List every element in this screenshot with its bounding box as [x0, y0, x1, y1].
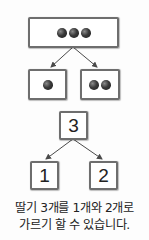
part-number-left: 1	[32, 163, 57, 188]
strawberry-icon	[89, 80, 99, 90]
caption-line-2: 가르기 할 수 있습니다.	[0, 217, 149, 233]
part-one-strawberry-box	[28, 69, 67, 100]
strawberry-icon	[57, 28, 67, 38]
whole-number-box: 3	[59, 111, 88, 140]
strawberry-icon	[101, 80, 111, 90]
strawberry-icon	[69, 28, 79, 38]
part-number-box-right: 2	[89, 161, 118, 190]
bottom-split-arrows	[46, 139, 102, 159]
strawberry-icon	[43, 80, 53, 90]
part-number-box-left: 1	[30, 161, 59, 190]
whole-number: 3	[61, 113, 86, 138]
part-two-strawberries-box	[80, 69, 120, 100]
part-number-right: 2	[91, 163, 116, 188]
top-split-arrows	[51, 47, 97, 67]
caption-line-1: 딸기 3개를 1개와 2개로	[0, 200, 149, 216]
strawberry-icon	[81, 28, 91, 38]
whole-strawberries-box	[28, 17, 119, 48]
